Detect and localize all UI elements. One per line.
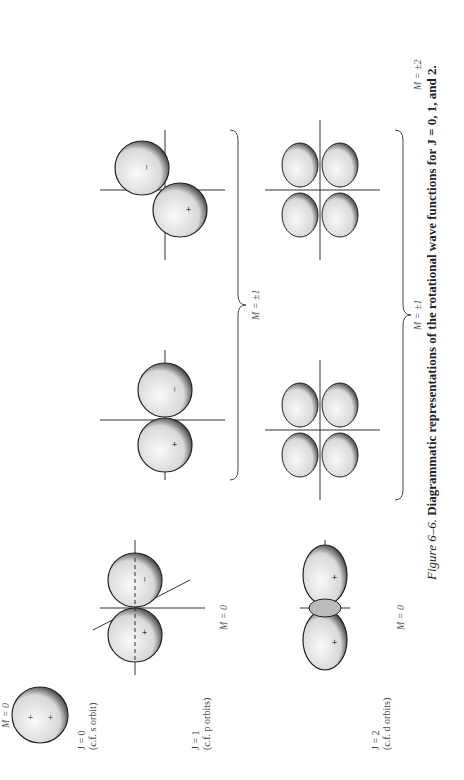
brace-j1-m1 <box>230 130 246 480</box>
svg-text:+: + <box>183 206 194 212</box>
j2-m1-cloverleaf-a <box>265 360 380 500</box>
j0-label: J = 0 (c.f. s orbit) <box>76 703 98 750</box>
j0-m-label: M = 0 <box>0 703 11 728</box>
j0-sphere: + + <box>12 687 68 743</box>
orbital-analogy: (c.f. p orbits) <box>201 698 212 750</box>
svg-text:+: + <box>25 714 36 720</box>
brace-j2-m1 <box>395 130 411 500</box>
svg-text:+: + <box>169 441 180 447</box>
figure-caption: Figure 6–6. Diagrammatic representations… <box>424 65 440 580</box>
j1-m1-dumbbell-a: + − <box>100 350 225 480</box>
caption-text: Diagrammatic representations of the rota… <box>424 65 439 516</box>
rotated-figure-page: + + + − + − <box>0 0 464 780</box>
j-value: J = 0 <box>76 703 87 750</box>
orbital-analogy: (c.f. s orbit) <box>87 703 98 750</box>
svg-text:+: + <box>329 574 340 580</box>
svg-text:−: − <box>141 164 152 170</box>
j1-m1-label: M = ±1 <box>250 289 261 320</box>
figure-number: Figure 6–6. <box>424 519 439 580</box>
j1-m0-label: M = 0 <box>218 605 229 630</box>
j2-m0-label: M = 0 <box>395 605 406 630</box>
j-value: J = 1 <box>190 698 201 750</box>
j1-m1-dumbbell-b: + − <box>100 130 225 260</box>
orbital-diagram: + + + − + − <box>0 0 464 780</box>
j2-m1-cloverleaf-b <box>265 120 380 260</box>
svg-text:+: + <box>329 639 340 645</box>
j2-label: J = 2 (c.f. d orbits) <box>370 698 392 750</box>
svg-text:+: + <box>139 629 150 635</box>
j1-label: J = 1 (c.f. p orbits) <box>190 698 212 750</box>
svg-text:−: − <box>169 386 180 392</box>
j-value: J = 2 <box>370 698 381 750</box>
j2-m1-label: M = ±1 <box>412 299 423 330</box>
j2-m2-label: M = ±2 <box>412 59 423 90</box>
j1-m0-dumbbell: + − <box>93 540 205 675</box>
svg-text:+: + <box>45 714 56 720</box>
j2-m0-dz2: + + <box>300 540 350 670</box>
svg-text:−: − <box>139 576 150 582</box>
figure-page: + + + − + − <box>0 0 464 780</box>
orbital-analogy: (c.f. d orbits) <box>381 698 392 750</box>
